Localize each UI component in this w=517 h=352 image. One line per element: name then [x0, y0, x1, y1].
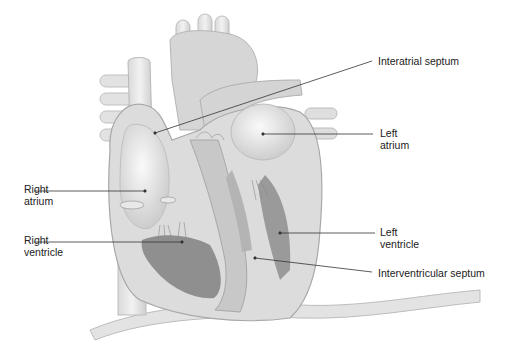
label-left-ventricle: Left ventricle — [380, 226, 419, 250]
label-text: ventricle — [24, 246, 63, 258]
label-text: Left — [380, 127, 409, 139]
heart-illustration — [0, 0, 517, 352]
left-atrium-chamber — [231, 104, 295, 160]
label-right-atrium: Right atrium — [24, 183, 53, 207]
label-text: atrium — [380, 139, 409, 151]
label-interatrial-septum: Interatrial septum — [378, 55, 459, 67]
label-text: ventricle — [380, 238, 419, 250]
label-text: Interatrial septum — [378, 55, 459, 67]
label-interventricular-septum: Interventricular septum — [378, 267, 485, 279]
label-right-ventricle: Right ventricle — [24, 234, 63, 258]
label-text: Interventricular septum — [378, 267, 485, 279]
label-text: Right — [24, 234, 63, 246]
label-left-atrium: Left atrium — [380, 127, 409, 151]
label-text: atrium — [24, 195, 53, 207]
label-text: Left — [380, 226, 419, 238]
label-text: Right — [24, 183, 53, 195]
